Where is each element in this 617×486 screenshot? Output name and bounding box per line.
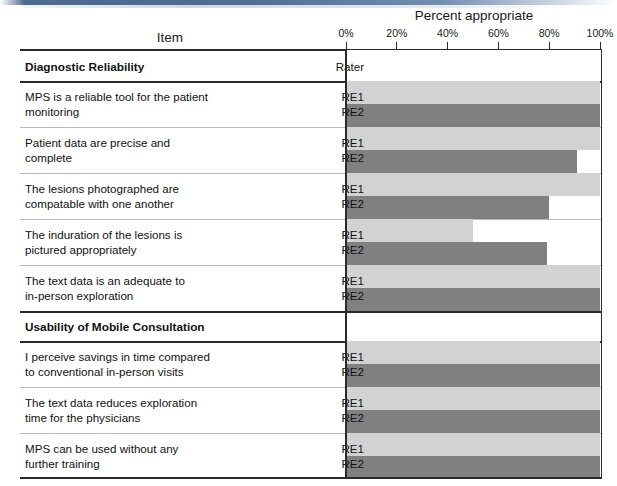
table-bottom-rule (20, 477, 602, 479)
table-row: The induration of the lesions ispictured… (20, 219, 602, 265)
bar-re1 (346, 81, 600, 104)
rater-label-re2: RE2 (320, 457, 364, 471)
section-header-row: Diagnostic ReliabilityRater (20, 51, 602, 81)
bar-re2 (346, 364, 600, 387)
bar-re1 (346, 127, 600, 150)
bar-re1 (346, 173, 600, 196)
table-row: I perceive savings in time comparedto co… (20, 341, 602, 387)
table-row: Patient data are precise andcompleteRE1R… (20, 127, 602, 173)
item-label-line2: pictured appropriately (25, 243, 315, 257)
rater-label-re1: RE1 (320, 274, 364, 288)
item-label-line2: complete (25, 151, 315, 165)
plot-left-axis-line (345, 50, 347, 478)
table-row: MPS can be used without anyfurther train… (20, 433, 602, 479)
item-label-line2: in-person exploration (25, 289, 315, 303)
rater-label-re2: RE2 (320, 197, 364, 211)
item-label-line1: The induration of the lesions is (25, 228, 315, 242)
figure-root: Percent appropriate Item 0%20%40%60%80%1… (0, 0, 617, 486)
table-row: MPS is a reliable tool for the patientmo… (20, 81, 602, 127)
rater-label-re2: RE2 (320, 105, 364, 119)
bar-re2 (346, 456, 600, 479)
item-label-line1: I perceive savings in time compared (25, 350, 315, 364)
bar-re1 (346, 387, 600, 410)
bar-re2 (346, 150, 577, 173)
rater-column-header: Rater (320, 60, 364, 74)
bar-re1 (346, 341, 600, 364)
rater-label-re1: RE1 (320, 136, 364, 150)
rater-label-re1: RE1 (320, 228, 364, 242)
item-label-line2: compatable with one another (25, 197, 315, 211)
table-row: The lesions photographed arecompatable w… (20, 173, 602, 219)
rater-label-re2: RE2 (320, 365, 364, 379)
rater-label-re1: RE1 (320, 350, 364, 364)
rater-label-re2: RE2 (320, 243, 364, 257)
item-label-line2: further training (25, 457, 315, 471)
bar-re2 (346, 288, 600, 311)
item-label-line2: time for the physicians (25, 411, 315, 425)
rater-label-re1: RE1 (320, 442, 364, 456)
rater-label-re2: RE2 (320, 411, 364, 425)
rater-label-re1: RE1 (320, 182, 364, 196)
plot-right-border-line (601, 50, 602, 478)
bar-re1 (346, 265, 600, 288)
bar-re2 (346, 242, 547, 265)
item-label-line1: Patient data are precise and (25, 136, 315, 150)
table-row: The text data is an adequate toin-person… (20, 265, 602, 311)
rater-label-re1: RE1 (320, 90, 364, 104)
section-header-label: Usability of Mobile Consultation (25, 320, 315, 334)
item-label-line1: The lesions photographed are (25, 182, 315, 196)
rater-label-re1: RE1 (320, 396, 364, 410)
bar-re2 (346, 410, 600, 433)
item-label-line1: The text data is an adequate to (25, 274, 315, 288)
bar-re2 (346, 104, 600, 127)
table-rows: Diagnostic ReliabilityRaterMPS is a reli… (0, 0, 617, 486)
item-label-line1: MPS is a reliable tool for the patient (25, 90, 315, 104)
item-label-line2: monitoring (25, 105, 315, 119)
item-label-line2: to conventional in-person visits (25, 365, 315, 379)
item-label-line1: The text data reduces exploration (25, 396, 315, 410)
section-header-label: Diagnostic Reliability (25, 60, 315, 74)
bar-re2 (346, 196, 549, 219)
bar-re1 (346, 433, 600, 456)
rater-label-re2: RE2 (320, 151, 364, 165)
section-header-row: Usability of Mobile Consultation (20, 311, 602, 341)
bar-re1 (346, 219, 473, 242)
rater-label-re2: RE2 (320, 289, 364, 303)
item-label-line1: MPS can be used without any (25, 442, 315, 456)
table-row: The text data reduces explorationtime fo… (20, 387, 602, 433)
